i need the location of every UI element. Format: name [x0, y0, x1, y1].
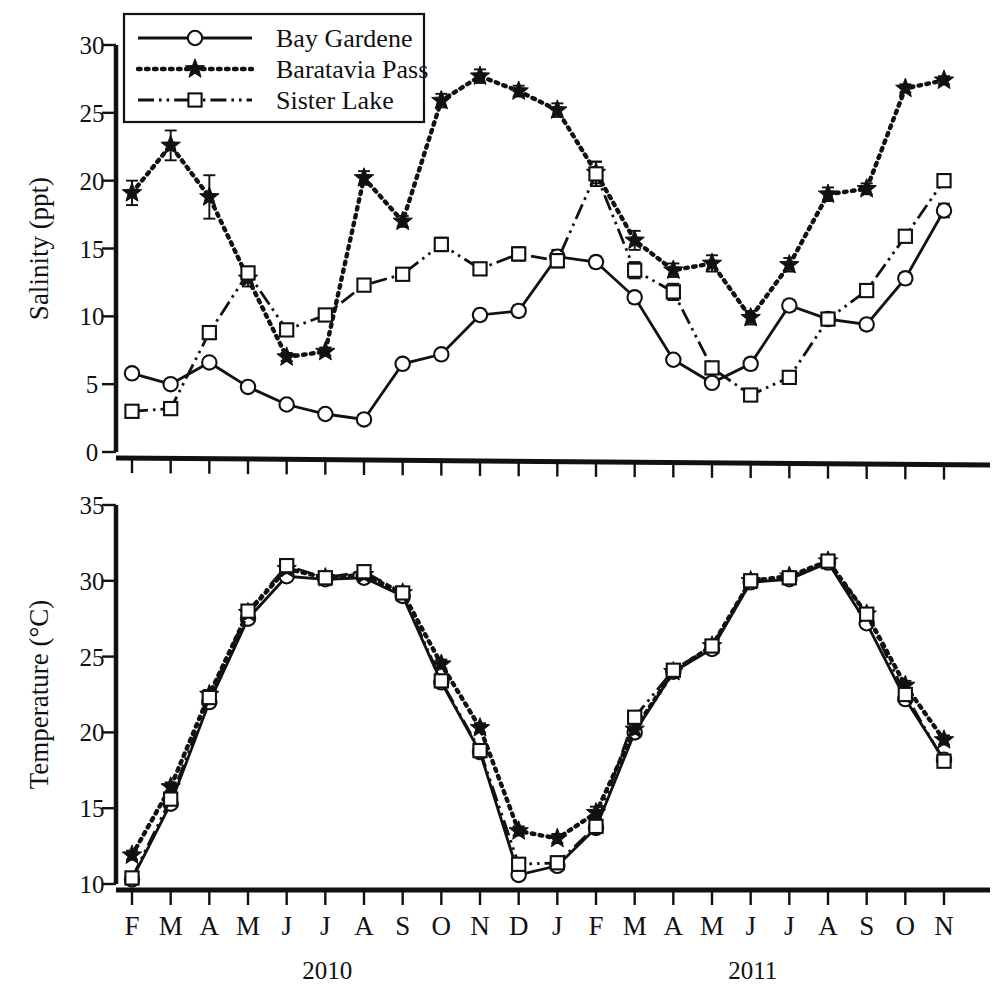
legend: Bay GardeneBaratavia PassSister Lake [124, 14, 428, 122]
x-tick-label-month: J [320, 911, 331, 941]
data-point-square [203, 326, 216, 339]
x-tick-label-month: J [745, 911, 756, 941]
data-point-square [164, 793, 177, 806]
data-point-circle [743, 357, 757, 371]
data-point-square [435, 238, 448, 251]
x-tick-label-month: M [623, 911, 647, 941]
data-point-square [937, 755, 950, 768]
x-tick-label-month: M [159, 911, 183, 941]
x-tick-label-month: D [509, 911, 529, 941]
data-point-square [164, 402, 177, 415]
data-point-square [396, 268, 409, 281]
data-point-circle [666, 353, 680, 367]
y-tick-label-top: 25 [80, 100, 105, 127]
y-tick-label-top: 15 [80, 236, 105, 263]
data-point-circle [357, 412, 371, 426]
legend-marker-square [188, 93, 201, 106]
data-point-square [280, 323, 293, 336]
data-point-circle [395, 357, 409, 371]
x-tick-label-month: A [200, 911, 220, 941]
data-point-square [744, 388, 757, 401]
x-tick-label-month: J [552, 911, 563, 941]
data-point-square [551, 254, 564, 267]
data-point-square [241, 605, 254, 618]
data-point-square [125, 405, 138, 418]
data-point-square [241, 266, 254, 279]
data-point-square [667, 664, 680, 677]
data-point-square [435, 674, 448, 687]
data-point-square [821, 554, 834, 567]
data-point-square [783, 371, 796, 384]
y-tick-label-bottom: 20 [80, 719, 105, 746]
y-axis-title-top: Salinity (ppt) [24, 177, 54, 320]
data-point-star [277, 347, 296, 365]
data-point-square [899, 688, 912, 701]
data-point-square [512, 858, 525, 871]
y-tick-label-top: 5 [86, 371, 99, 398]
data-point-square [821, 312, 834, 325]
data-point-square [860, 284, 873, 297]
x-tick-label-month: A [818, 911, 838, 941]
y-tick-label-bottom: 15 [80, 795, 105, 822]
x-tick-label-month: F [124, 911, 139, 941]
x-tick-label-month: S [395, 911, 410, 941]
data-point-square [203, 691, 216, 704]
data-point-circle [241, 380, 255, 394]
x-tick-label-month: M [236, 911, 260, 941]
data-point-square [589, 820, 602, 833]
data-point-square [512, 247, 525, 260]
legend-label: Baratavia Pass [276, 55, 428, 84]
data-point-circle [511, 304, 525, 318]
x-tick-label-month: M [700, 911, 724, 941]
data-point-square [473, 744, 486, 757]
data-point-circle [859, 317, 873, 331]
x-tick-label-month: J [784, 911, 795, 941]
data-point-square [628, 711, 641, 724]
legend-marker-circle [188, 31, 202, 45]
x-tick-label-month: O [432, 911, 452, 941]
data-point-square [280, 559, 293, 572]
y-tick-label-bottom: 30 [80, 568, 105, 595]
x-tick-label-month: A [664, 911, 684, 941]
data-point-square [705, 639, 718, 652]
data-point-square [551, 856, 564, 869]
data-point-circle [473, 308, 487, 322]
data-point-circle [705, 376, 719, 390]
x-axis-year-label: 2011 [728, 957, 777, 984]
data-point-square [937, 174, 950, 187]
x-tick-label-month: N [470, 911, 490, 941]
data-point-circle [318, 407, 332, 421]
data-point-circle [782, 298, 796, 312]
data-point-square [744, 574, 757, 587]
data-point-square [783, 571, 796, 584]
data-point-square [319, 571, 332, 584]
two-panel-timeseries-figure: 051015202530Salinity (ppt)101520253035Te… [0, 0, 999, 997]
figure-root: 051015202530Salinity (ppt)101520253035Te… [0, 0, 999, 997]
data-point-square [473, 262, 486, 275]
legend-label: Sister Lake [276, 86, 394, 115]
data-point-circle [163, 377, 177, 391]
data-point-square [667, 285, 680, 298]
x-axis-year-label: 2010 [302, 957, 352, 984]
y-tick-label-bottom: 35 [80, 492, 105, 519]
data-point-square [319, 308, 332, 321]
y-tick-label-bottom: 25 [80, 644, 105, 671]
y-tick-label-top: 30 [80, 32, 105, 59]
series-baratavia-pass-bottom [122, 551, 953, 864]
data-point-circle [937, 203, 951, 217]
data-point-circle [202, 355, 216, 369]
data-point-square [589, 167, 602, 180]
data-point-star [316, 341, 335, 359]
data-point-square [396, 586, 409, 599]
data-point-square [860, 608, 873, 621]
data-point-circle [898, 271, 912, 285]
data-point-star [896, 78, 915, 96]
y-tick-label-bottom: 10 [80, 871, 105, 898]
panel-bottom: 101520253035Temperature (°C) [24, 492, 990, 905]
data-point-star [934, 70, 953, 88]
x-tick-label-month: J [281, 911, 292, 941]
x-tick-label-month: N [934, 911, 954, 941]
data-point-square [705, 361, 718, 374]
y-tick-label-top: 20 [80, 168, 105, 195]
y-tick-label-top: 10 [80, 303, 105, 330]
